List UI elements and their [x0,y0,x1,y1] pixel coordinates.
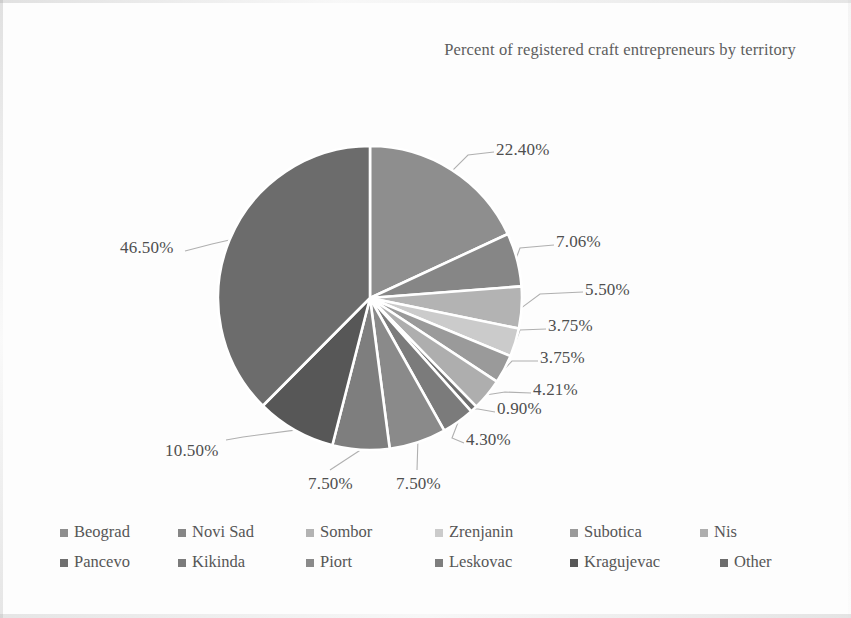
legend-swatch-icon [178,559,186,567]
pie-data-label: 3.75% [540,348,585,368]
leader-line [474,409,495,412]
leader-line [226,430,295,440]
pie-slices-group [218,146,522,450]
legend-swatch-icon [435,559,443,567]
legend-swatch-icon [60,529,68,537]
leader-line [487,392,531,395]
legend-item-label: Kragujevac [584,552,660,572]
legend-item-kragujevac[interactable]: Kragujevac [570,552,660,572]
legend-swatch-icon [60,559,68,567]
legend-swatch-icon [570,529,578,537]
pie-plot-area: 22.40%7.06%5.50%3.75%3.75%4.21%0.90%4.30… [0,0,851,520]
legend-item-leskovac[interactable]: Leskovac [435,552,512,572]
legend-item-label: Beograd [74,522,130,542]
legend-item-piort[interactable]: Piort [306,552,352,572]
legend-swatch-icon [700,529,708,537]
leader-line [522,292,583,308]
legend-item-label: Novi Sad [192,522,254,542]
leader-line [504,361,538,369]
leader-line [516,245,554,260]
legend-item-label: Leskovac [449,552,512,572]
legend-item-label: Other [734,552,772,572]
leader-line [417,442,418,470]
legend-swatch-icon [570,559,578,567]
legend-item-subotica[interactable]: Subotica [570,522,642,542]
leader-line [185,240,229,251]
legend-item-zrenjanin[interactable]: Zrenjanin [435,522,513,542]
legend-item-kikinda[interactable]: Kikinda [178,552,245,572]
pie-data-label: 0.90% [497,399,542,419]
legend-item-label: Kikinda [192,552,245,572]
pie-data-label: 7.50% [308,474,353,494]
legend-item-label: Pancevo [74,552,130,572]
legend-item-pancevo[interactable]: Pancevo [60,552,130,572]
legend-swatch-icon [435,529,443,537]
legend-item-nis[interactable]: Nis [700,522,737,542]
pie-data-label: 7.06% [556,232,601,252]
leader-line [330,450,361,470]
pie-data-label: 10.50% [165,441,219,461]
legend-item-label: Subotica [584,522,642,542]
pie-data-label: 4.21% [533,380,578,400]
legend-item-novi-sad[interactable]: Novi Sad [178,522,254,542]
leader-line [449,152,494,174]
legend-swatch-icon [720,559,728,567]
legend-swatch-icon [306,559,314,567]
legend-item-label: Nis [714,522,737,542]
pie-data-label: 4.30% [466,430,511,450]
legend-item-label: Sombor [320,522,372,542]
pie-data-label: 7.50% [396,474,441,494]
legend-item-label: Zrenjanin [449,522,513,542]
legend-row: BeogradNovi SadSomborZrenjaninSuboticaNi… [60,522,800,552]
pie-data-label: 3.75% [548,316,593,336]
leader-line [515,329,546,343]
pie-data-label: 5.50% [585,280,630,300]
legend-item-other[interactable]: Other [720,552,772,572]
chart-page: Percent of registered craft entrepreneur… [0,0,851,618]
pie-chart-svg [0,0,851,520]
legend-swatch-icon [306,529,314,537]
pie-data-label: 22.40% [496,140,550,160]
pie-data-label: 46.50% [120,238,174,258]
legend-item-label: Piort [320,552,352,572]
legend-row: PancevoKikindaPiortLeskovacKragujevacOth… [60,552,800,582]
legend-swatch-icon [178,529,186,537]
legend-item-sombor[interactable]: Sombor [306,522,372,542]
scan-edge-bottom [0,614,851,618]
legend-item-beograd[interactable]: Beograd [60,522,130,542]
chart-legend: BeogradNovi SadSomborZrenjaninSuboticaNi… [60,522,800,582]
